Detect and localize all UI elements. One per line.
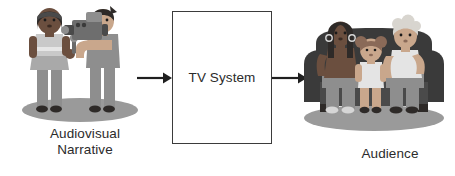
process-box-tv-system[interactable]: TV System [172,11,272,144]
label-audience: Audience [330,146,450,162]
arrow-right-icon [135,68,173,88]
illustration-audiovisual-narrative [14,4,146,124]
reporter-figure-icon [29,8,75,113]
arrow-narrative-to-system [135,68,173,92]
diagram-canvas: Audiovisual Narrative TV System [0,0,455,176]
process-box-label: TV System [189,70,256,85]
illustration-audience [298,6,450,134]
video-camera-icon [61,12,108,40]
label-audiovisual-narrative: Audiovisual Narrative [8,126,162,158]
family-on-couch-icon [298,6,450,134]
reporter-and-cameraman-icon [14,4,146,124]
